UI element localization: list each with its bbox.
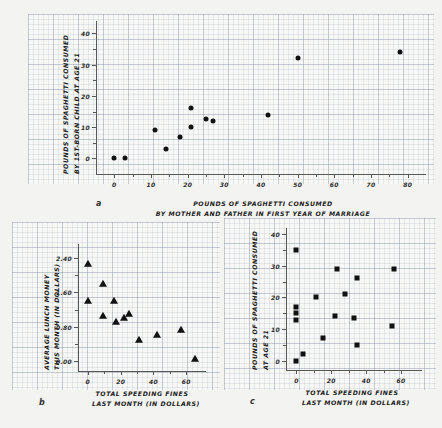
panel-a-x-minor-tick (133, 174, 134, 177)
panel-c-x-tick (331, 370, 332, 374)
panel-b-x-tick (153, 371, 154, 375)
panel-b: AVERAGE LUNCH MONEY THIS MONTH (IN DOLLA… (12, 222, 220, 390)
panel-b-x-minor-tick (104, 371, 105, 374)
panel-c-y-minor-tick (283, 345, 286, 346)
panel-a-y-minor-tick (93, 49, 96, 50)
panel-a-x-tick-label: 30 (220, 181, 229, 188)
panel-a-x-minor-tick (169, 174, 170, 177)
panel-c-data-point (352, 315, 357, 320)
panel-b-x-axis-title-line1: TOTAL SPEEDING FINES (68, 390, 216, 397)
panel-c-data-point (294, 248, 299, 253)
panel-a-data-point (163, 147, 168, 152)
panel-b-data-point (191, 355, 199, 362)
panel-b-x-minor-tick (170, 371, 171, 374)
panel-a-data-point (189, 106, 194, 111)
panel-c-x-tick (401, 370, 402, 374)
panel-a-x-tick-label: 40 (257, 181, 266, 188)
panel-a-x-axis-title-line2: BY MOTHER AND FATHER IN FIRST YEAR OF MA… (108, 210, 418, 217)
panel-b-data-point (177, 326, 185, 333)
panel-a: POUNDS OF SPAGHETTI CONSUMED BY 1ST-BORN… (28, 14, 434, 184)
panel-c-x-tick (296, 370, 297, 374)
panel-b-y-tick (74, 361, 78, 362)
panel-b-y-tick (74, 292, 78, 293)
panel-b-x-tick (121, 371, 122, 375)
panel-a-y-tick (92, 96, 96, 97)
panel-a-x-tick-label: 20 (183, 181, 192, 188)
panel-a-y-tick (92, 33, 96, 34)
panel-c-y-tick (282, 266, 286, 267)
panel-b-data-point (99, 312, 107, 319)
panel-a-x-tick (261, 174, 262, 178)
panel-c-data-point (294, 304, 299, 309)
panel-c-data-point (313, 295, 318, 300)
panel-c-y-minor-tick (283, 282, 286, 283)
panel-c-data-point (320, 336, 325, 341)
panel-c-y-tick-label: 0 (276, 357, 280, 364)
panel-a-x-tick-label: 70 (367, 181, 376, 188)
panel-a-x-tick-label: 50 (293, 181, 302, 188)
panel-b-data-point (153, 331, 161, 338)
panel-a-y-axis-title-line1: POUNDS OF SPAGHETTI CONSUMED (62, 35, 69, 175)
panel-c-y-tick-label: 10 (271, 325, 280, 332)
panel-b-x-tick-label: 60 (182, 378, 191, 385)
panel-a-x-minor-tick (316, 174, 317, 177)
panel-c-y-tick (282, 297, 286, 298)
panel-c-x-tick-label: 40 (362, 377, 371, 384)
panel-c-letter: c (250, 397, 255, 406)
panel-c-data-point (294, 358, 299, 363)
panel-a-data-point (152, 128, 157, 133)
panel-b-y-axis-title-line2: THIS MONTH (IN DOLLARS) (53, 263, 60, 370)
panel-b-y-axis-title-line1: AVERAGE LUNCH MONEY (43, 274, 50, 370)
panel-c-data-point (294, 311, 299, 316)
panel-b-data-point (84, 297, 92, 304)
panel-b-y-tick-label: 0.00 (56, 358, 72, 365)
panel-a-x-minor-tick (206, 174, 207, 177)
panel-c-x-minor-tick (349, 370, 350, 373)
panel-a-data-point (189, 125, 194, 130)
panel-c-y-axis-title-line2: AT AGE 21 (262, 330, 269, 370)
panel-b-y-tick (74, 327, 78, 328)
panel-c-data-point (390, 323, 395, 328)
panel-a-data-point (211, 118, 216, 123)
panel-a-y-tick (92, 127, 96, 128)
panel-b-data-point (84, 260, 92, 267)
panel-b-x-tick-label: 40 (149, 378, 158, 385)
panel-a-y-axis (96, 21, 97, 175)
panel-b-letter: b (39, 398, 45, 407)
panel-a-x-tick-label: 80 (403, 181, 412, 188)
panel-b-y-tick-label: 2.40 (56, 254, 72, 261)
panel-b-data-point (110, 297, 118, 304)
panel-c-y-axis-title-line1: POUNDS OF SPAGHETTI CONSUMED (251, 231, 258, 371)
panel-c-x-tick-label: 20 (327, 377, 336, 384)
panel-b-y-minor-tick (75, 310, 78, 311)
panel-a-x-tick (298, 174, 299, 178)
panel-c-x-tick-label: 0 (294, 377, 298, 384)
panel-b-y-tick-label: 0.80 (56, 323, 72, 330)
panel-a-x-minor-tick (243, 174, 244, 177)
panel-a-data-point (204, 117, 209, 122)
panel-a-x-minor-tick (353, 174, 354, 177)
panel-c-y-minor-tick (283, 313, 286, 314)
panel-a-data-point (123, 156, 128, 161)
panel-b-y-minor-tick (75, 344, 78, 345)
panel-b-data-point (125, 310, 133, 317)
panel-a-x-tick (151, 174, 152, 178)
panel-a-x-tick (371, 174, 372, 178)
panel-c-x-axis-title-line1: TOTAL SPEEDING FINES (277, 389, 427, 396)
panel-b-x-axis-title-line2: LAST MONTH (IN DOLLARS) (72, 400, 220, 407)
panel-c-data-point (355, 276, 360, 281)
panel-a-x-tick-label: 60 (330, 181, 339, 188)
panel-a-data-point (398, 50, 403, 55)
panel-c-data-point (355, 342, 360, 347)
panel-a-x-tick (188, 174, 189, 178)
panel-a-y-tick-label: 20 (81, 92, 90, 99)
panel-c-y-tick (282, 361, 286, 362)
panel-a-y-tick (92, 158, 96, 159)
panel-c-data-point (332, 314, 337, 319)
panel-c-x-minor-tick (384, 370, 385, 373)
panel-b-x-minor-tick (137, 371, 138, 374)
panel-a-y-tick-label: 10 (81, 124, 90, 131)
panel-a-x-tick (408, 174, 409, 178)
panel-c-data-point (392, 267, 397, 272)
panel-c-y-tick-label: 40 (271, 231, 280, 238)
